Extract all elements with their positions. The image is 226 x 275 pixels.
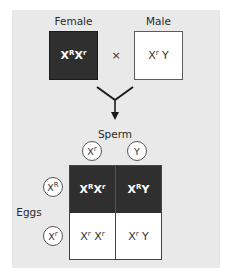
merge-down-arrow-icon: [95, 85, 135, 121]
male-genotype: Xr Y: [148, 49, 169, 62]
sperm-label: Sperm: [90, 128, 140, 140]
eggs-label: Eggs: [14, 206, 44, 218]
male-label: Male: [134, 15, 183, 27]
cross-symbol: ×: [108, 50, 124, 62]
egg-gamete-circle: Xr: [43, 226, 63, 246]
female-genotype: XRXr: [61, 49, 87, 62]
punnett-cell: Xr Y: [116, 213, 161, 259]
punnett-cell: Xr Xr: [70, 213, 116, 259]
sperm-gamete-xr: Xr: [87, 146, 96, 157]
female-label: Female: [49, 15, 98, 27]
egg-gamete-circle: XR: [43, 177, 63, 197]
sperm-gamete-y: Y: [134, 146, 140, 157]
punnett-square: XRXr XRY Xr Xr Xr Y: [69, 165, 162, 260]
sperm-gamete-circle: Y: [127, 141, 147, 161]
punnett-cell: XRXr: [70, 166, 116, 213]
egg-gamete-xr: Xr: [48, 231, 57, 242]
offspring-genotype: Xr Xr: [80, 230, 104, 243]
offspring-genotype: XRXr: [80, 183, 106, 196]
offspring-genotype: XRY: [128, 183, 150, 196]
female-genotype-box: XRXr: [49, 31, 98, 80]
sperm-gamete-circle: Xr: [82, 141, 102, 161]
egg-gamete-xR: XR: [47, 182, 58, 193]
offspring-genotype: Xr Y: [128, 230, 149, 243]
male-genotype-box: Xr Y: [134, 31, 183, 80]
punnett-cell: XRY: [116, 166, 161, 213]
